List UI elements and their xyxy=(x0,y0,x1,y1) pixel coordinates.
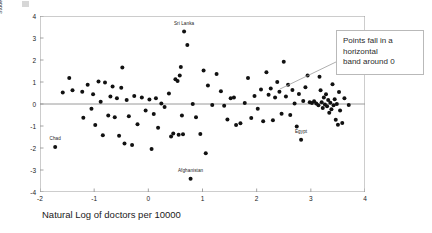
x-tick-label: -2 xyxy=(37,195,43,202)
x-tick-label: 0 xyxy=(147,195,151,202)
x-tick-label: -1 xyxy=(91,195,97,202)
corner-artifact-mark xyxy=(22,1,29,7)
plot-canvas xyxy=(40,16,365,192)
y-tick-label: 4 xyxy=(26,13,36,20)
x-tick-label: 2 xyxy=(255,195,259,202)
x-tick-label: 1 xyxy=(201,195,205,202)
y-axis-title: Studentized Deleted Residual xyxy=(0,0,3,14)
callout-annotation-box: Points fall in a horizontal band around … xyxy=(336,30,424,75)
x-tick-label: 3 xyxy=(309,195,313,202)
y-tick-label: 2 xyxy=(26,57,36,64)
y-tick-label: -2 xyxy=(26,145,36,152)
y-tick-label: -1 xyxy=(26,123,36,130)
callout-line-2: horizontal xyxy=(343,47,417,58)
point-label-sri-lanka: Sri Lanka xyxy=(174,21,194,26)
y-tick-label: 1 xyxy=(26,79,36,86)
x-tick-label: 4 xyxy=(363,195,367,202)
x-axis-title: Natural Log of doctors per 10000 xyxy=(42,209,181,220)
callout-line-1: Points fall in a xyxy=(343,36,417,47)
y-tick-label: -4 xyxy=(26,189,36,196)
callout-line-3: band around 0 xyxy=(343,57,417,68)
y-tick-label: -3 xyxy=(26,167,36,174)
y-tick-label: 0 xyxy=(26,101,36,108)
point-label-egypt: Egypt xyxy=(295,129,307,134)
point-label-chad: Chad xyxy=(49,136,60,141)
y-tick-label: 3 xyxy=(26,35,36,42)
data-point-group xyxy=(53,29,351,180)
point-label-afghanistan: Afghanistan xyxy=(178,168,203,173)
figure-scatter-residual-plot: Studentized Deleted Residual Natural Log… xyxy=(0,0,432,233)
plot-area: Sri LankaChadAfghanistanEgypt xyxy=(40,16,365,192)
